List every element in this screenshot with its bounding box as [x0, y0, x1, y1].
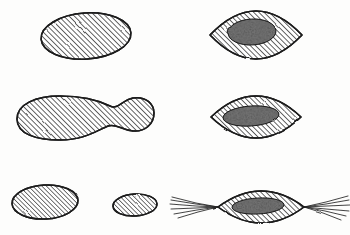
figure-root [0, 0, 350, 235]
figure-canvas [0, 0, 350, 235]
